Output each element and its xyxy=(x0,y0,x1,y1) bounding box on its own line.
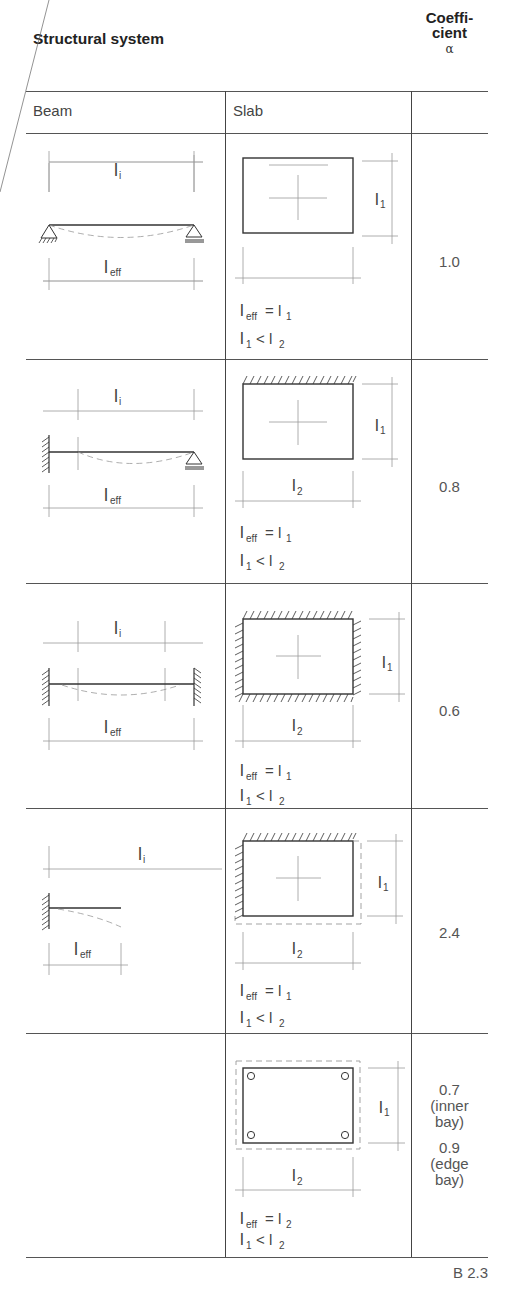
svg-text:= l: = l xyxy=(265,762,281,779)
svg-text:2: 2 xyxy=(297,486,303,497)
column-icon xyxy=(247,1072,254,1079)
coefficient-value-row-5: 0.7 (inner bay) 0.9 (edge bay) xyxy=(411,1082,488,1188)
svg-text:1: 1 xyxy=(246,1240,252,1251)
svg-text:l: l xyxy=(375,416,379,435)
slab-diagram-two-edges-fixed: l1 l2 leff = l1 l1 < l2 xyxy=(225,808,411,1033)
coefficient-inner-bay-label-1: (inner xyxy=(411,1098,488,1114)
svg-text:1: 1 xyxy=(380,199,386,210)
svg-text:1: 1 xyxy=(246,1018,252,1029)
svg-text:l: l xyxy=(292,1166,296,1185)
svg-text:1: 1 xyxy=(384,1107,390,1118)
svg-text:l: l xyxy=(375,190,379,209)
svg-text:eff: eff xyxy=(246,311,257,322)
slab-diagram-one-edge-fixed: l1 l2 leff = l1 l1 < l2 xyxy=(225,359,411,583)
svg-text:l: l xyxy=(240,551,244,570)
coefficient-value-row-4: 2.4 xyxy=(411,925,488,941)
svg-text:1: 1 xyxy=(246,339,252,350)
svg-text:l: l xyxy=(240,523,244,542)
figure-reference: B 2.3 xyxy=(453,1264,488,1281)
svg-text:eff: eff xyxy=(80,949,91,960)
svg-text:l: l xyxy=(240,761,244,780)
svg-text:2: 2 xyxy=(279,339,285,350)
svg-text:l: l xyxy=(240,786,244,805)
svg-text:2: 2 xyxy=(297,726,303,737)
svg-text:eff: eff xyxy=(246,991,257,1002)
coefficient-header: Coeffi- cient xyxy=(411,10,488,40)
svg-text:1: 1 xyxy=(286,991,292,1002)
svg-text:< l: < l xyxy=(256,787,272,804)
column-icon xyxy=(341,1072,348,1079)
coefficient-value-row-3: 0.6 xyxy=(411,703,488,719)
slab-diagram-all-edges-fixed: l1 l2 leff = l1 l1 < l2 xyxy=(225,583,411,808)
svg-text:1: 1 xyxy=(387,662,393,673)
svg-text:< l: < l xyxy=(256,552,272,569)
svg-text:= l: = l xyxy=(265,524,281,541)
svg-text:2: 2 xyxy=(279,561,285,572)
svg-text:< l: < l xyxy=(256,1231,272,1248)
coefficient-value-row-2: 0.8 xyxy=(411,479,488,495)
column-icon xyxy=(341,1131,348,1138)
coefficient-header-line2: cient xyxy=(411,25,488,40)
svg-text:1: 1 xyxy=(246,561,252,572)
svg-text:= l: = l xyxy=(265,302,281,319)
coefficient-edge-bay-value: 0.9 xyxy=(411,1140,488,1156)
svg-text:l: l xyxy=(240,1230,244,1249)
svg-text:eff: eff xyxy=(246,771,257,782)
table-bottom-rule xyxy=(26,1257,488,1258)
svg-text:l: l xyxy=(240,981,244,1000)
coefficient-inner-bay-value: 0.7 xyxy=(411,1082,488,1098)
coefficient-edge-bay-label-2: bay) xyxy=(411,1172,488,1188)
coefficient-inner-bay-label-2: bay) xyxy=(411,1114,488,1130)
svg-text:2: 2 xyxy=(286,1219,292,1230)
svg-text:l: l xyxy=(240,1209,244,1228)
slab-diagram-simply-supported: l1 leff = l1 l1 < l2 xyxy=(225,133,411,359)
svg-text:i: i xyxy=(143,854,145,865)
svg-text:1: 1 xyxy=(383,882,389,893)
svg-text:l: l xyxy=(240,329,244,348)
svg-text:1: 1 xyxy=(380,425,386,436)
svg-text:l: l xyxy=(74,939,78,959)
svg-text:2: 2 xyxy=(279,796,285,807)
svg-text:1: 1 xyxy=(286,311,292,322)
svg-text:l: l xyxy=(240,1008,244,1027)
svg-text:1: 1 xyxy=(246,796,252,807)
svg-text:= l: = l xyxy=(265,1210,281,1227)
coefficient-edge-bay-label-1: (edge xyxy=(411,1156,488,1172)
svg-text:l: l xyxy=(378,873,382,892)
svg-text:l: l xyxy=(292,716,296,735)
svg-text:l: l xyxy=(138,844,142,864)
slab-diagram-flat-slab-columns: l1 l2 leff = l2 l1 < l2 xyxy=(225,1033,411,1257)
svg-text:eff: eff xyxy=(246,533,257,544)
coefficient-header-line1: Coeffi- xyxy=(411,10,488,25)
svg-text:2: 2 xyxy=(279,1240,285,1251)
alpha-symbol: α xyxy=(411,42,488,56)
svg-text:l: l xyxy=(240,301,244,320)
svg-text:< l: < l xyxy=(256,330,272,347)
svg-text:l: l xyxy=(292,939,296,958)
svg-text:l: l xyxy=(382,653,386,672)
svg-text:< l: < l xyxy=(256,1009,272,1026)
svg-text:2: 2 xyxy=(297,949,303,960)
svg-text:2: 2 xyxy=(279,1018,285,1029)
column-icon xyxy=(247,1131,254,1138)
svg-text:= l: = l xyxy=(265,982,281,999)
svg-text:l: l xyxy=(379,1098,383,1117)
svg-text:1: 1 xyxy=(286,533,292,544)
svg-text:l: l xyxy=(292,476,296,495)
svg-text:2: 2 xyxy=(297,1176,303,1187)
coefficient-value-row-1: 1.0 xyxy=(411,254,488,270)
svg-text:eff: eff xyxy=(246,1219,257,1230)
column-header-slab: Slab xyxy=(233,102,263,119)
beam-diagram-cantilever: li leff xyxy=(0,0,226,1033)
svg-text:1: 1 xyxy=(286,771,292,782)
